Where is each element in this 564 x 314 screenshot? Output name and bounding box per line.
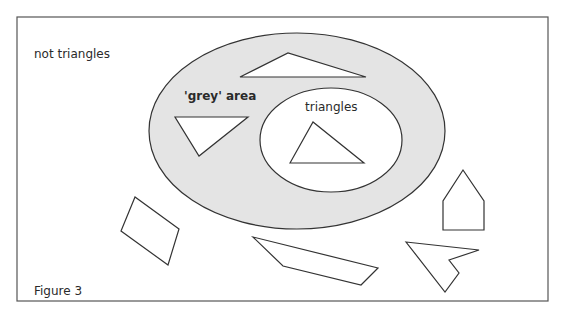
not-triangles-label: not triangles: [34, 47, 110, 61]
figure-caption: Figure 3: [34, 284, 82, 298]
grey-area-label: 'grey' area: [184, 89, 256, 103]
triangles-label: triangles: [305, 100, 358, 114]
